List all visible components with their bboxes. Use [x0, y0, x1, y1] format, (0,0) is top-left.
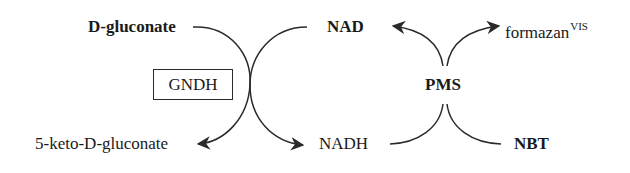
- d-prefix: D: [88, 17, 100, 36]
- arc-nad-to-nadh: [250, 27, 307, 145]
- mediator-pms: PMS: [425, 75, 461, 95]
- reaction-scheme-diagram: D-gluconate GNDH 5-keto-D-gluconate NAD …: [0, 0, 630, 173]
- formazan-superscript: VIS: [570, 20, 588, 32]
- product-formazan: formazanVIS: [505, 16, 588, 43]
- product-5-keto-d-gluconate: 5-keto-D-gluconate: [35, 134, 168, 154]
- cofactor-nad: NAD: [327, 17, 364, 37]
- cofactor-nadh: NADH: [319, 134, 368, 154]
- dye-nbt: NBT: [514, 134, 549, 154]
- enzyme-label: GNDH: [168, 75, 217, 95]
- substrate-d-gluconate: D-gluconate: [88, 17, 176, 37]
- enzyme-gndh-box: GNDH: [153, 69, 233, 100]
